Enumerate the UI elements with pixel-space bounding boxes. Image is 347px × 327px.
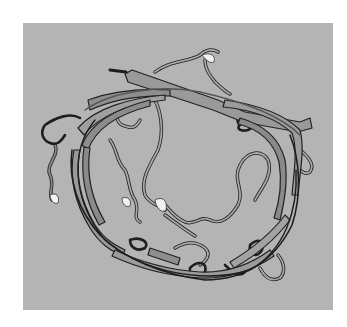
- helix-left: [50, 194, 59, 203]
- helix-center: [155, 198, 166, 211]
- protein-structure-illustration: [0, 0, 347, 327]
- helix-left-center: [122, 197, 131, 206]
